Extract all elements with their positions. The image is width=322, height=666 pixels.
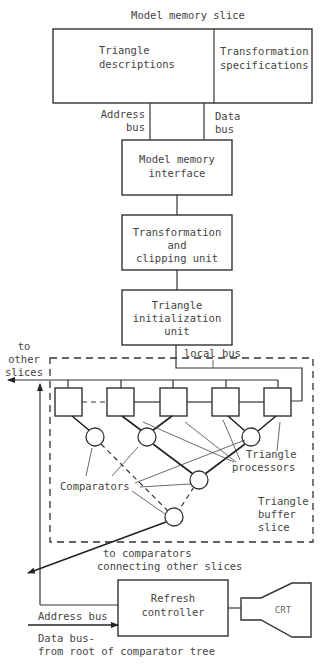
triangle-processors: [55, 388, 291, 416]
to-comparators-label-2: connecting other slices: [97, 560, 242, 572]
block-label: clipping unit: [136, 252, 218, 264]
triangle-buffer-slice-label-1: Triangle: [258, 495, 309, 507]
to-other-slices-label-1: to: [18, 340, 31, 352]
refresh-controller-label-1: Refresh: [151, 592, 195, 604]
triangle-descriptions-label-2: descriptions: [99, 58, 175, 70]
triangle-processor: [160, 388, 187, 416]
address-bus-label: Address bus: [38, 610, 108, 622]
to-other-slices-label-3: slices: [5, 366, 43, 378]
comparator: [190, 471, 208, 489]
triangle-buffer-architecture-diagram: Model memory slice Triangle descriptions…: [0, 0, 322, 666]
transformation-specifications-label-1: Transformation: [220, 45, 309, 57]
triangle-processor: [55, 388, 82, 416]
block-label: Triangle: [152, 299, 203, 311]
local-bus-label: local bus: [184, 347, 241, 359]
triangle-processors-label-1: Triangle: [246, 448, 297, 460]
refresh-controller-block: Refresh controller: [118, 580, 228, 636]
to-other-slices-label-2: other: [8, 353, 40, 365]
address-bus-label-2: bus: [126, 121, 145, 133]
triangle-processor: [264, 388, 291, 416]
to-comparators-label-1: to comparators: [103, 547, 192, 559]
comparator: [242, 428, 260, 446]
comparator: [86, 428, 104, 446]
triangle-initialization-block: Triangle initialization unit: [122, 290, 232, 345]
block-label: Transformation: [133, 226, 222, 238]
comparators-label: Comparators: [60, 480, 130, 492]
block-label: and: [168, 239, 187, 251]
triangle-buffer-slice-label-3: slice: [258, 521, 290, 533]
address-bus-label-1: Address: [101, 108, 145, 120]
block-label: Model memory: [139, 153, 215, 165]
comparator: [165, 508, 183, 526]
processor-bus-taps: [68, 380, 278, 388]
triangle-descriptions-label-1: Triangle: [99, 44, 150, 56]
data-bus-label-1: Data: [215, 110, 240, 122]
triangle-processors-label-2: processors: [232, 461, 295, 473]
data-bus-label-2: bus: [215, 123, 234, 135]
triangle-processor: [107, 388, 134, 416]
triangle-buffer-slice-label-2: buffer: [258, 508, 296, 520]
model-memory-interface-block: Model memory interface: [122, 140, 232, 195]
transformation-clipping-block: Transformation and clipping unit: [122, 215, 232, 270]
refresh-controller-label-2: controller: [141, 606, 204, 618]
block-label: interface: [149, 167, 206, 179]
block-label: initialization: [133, 312, 222, 324]
comparator: [138, 428, 156, 446]
data-bus-label-1: Data bus-: [38, 632, 95, 644]
crt-label: CRT: [275, 605, 292, 615]
triangle-processor: [212, 388, 239, 416]
block-label: unit: [164, 325, 189, 337]
diagram-title: Model memory slice: [131, 9, 245, 21]
transformation-specifications-label-2: specifications: [220, 59, 309, 71]
model-memory-slice: Triangle descriptions Transformation spe…: [53, 29, 312, 103]
comparators-leaders: [86, 440, 245, 514]
data-bus-label-2: from root of comparator tree: [38, 645, 215, 657]
